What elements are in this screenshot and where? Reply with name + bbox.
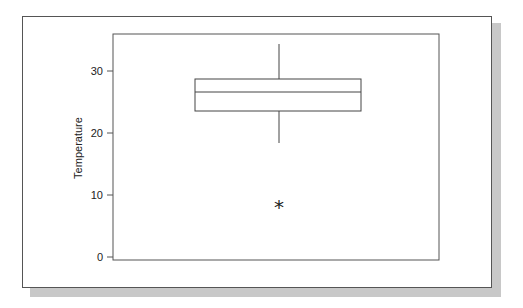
box-series: * (195, 44, 361, 219)
y-tick-label: 0 (97, 251, 103, 263)
y-tick-label: 20 (91, 127, 103, 139)
y-tick-label: 30 (91, 65, 103, 77)
y-axis: 0 10 20 30 Temperature (72, 65, 113, 263)
boxplot-chart: 0 10 20 30 Temperature * (0, 0, 523, 308)
y-tick-label: 10 (91, 189, 103, 201)
outlier-marker: * (274, 195, 284, 219)
y-axis-title: Temperature (72, 117, 84, 179)
interquartile-box (195, 79, 361, 111)
plot-area (113, 34, 439, 260)
